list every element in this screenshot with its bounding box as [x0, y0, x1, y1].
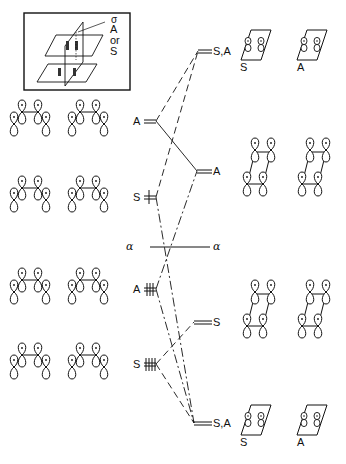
left-level-1-label: A [133, 116, 140, 127]
bottom-s-label: S [240, 437, 247, 448]
correlation-lines [156, 51, 198, 423]
right-level-1-label: S,A [213, 46, 231, 57]
bottom-a-label: A [297, 437, 304, 448]
alpha-right-label: α [213, 241, 220, 252]
right-level-4-label: S,A [213, 418, 231, 429]
inset-s-label: S [110, 46, 117, 57]
alpha-left-label: α [126, 241, 133, 252]
right-level-lines [194, 50, 212, 425]
right-level-2-label: A [213, 166, 220, 177]
top-a-label: A [297, 62, 304, 73]
top-s-label: S [240, 62, 247, 73]
left-level-2-label: S [133, 192, 140, 203]
right-level-3-label: S [213, 317, 220, 328]
left-level-lines [144, 120, 156, 371]
left-orbitals [10, 100, 108, 379]
correlation-diagram [0, 0, 346, 464]
left-level-4-label: S [133, 359, 140, 370]
right-orbitals [241, 30, 330, 435]
left-level-3-label: A [133, 284, 140, 295]
